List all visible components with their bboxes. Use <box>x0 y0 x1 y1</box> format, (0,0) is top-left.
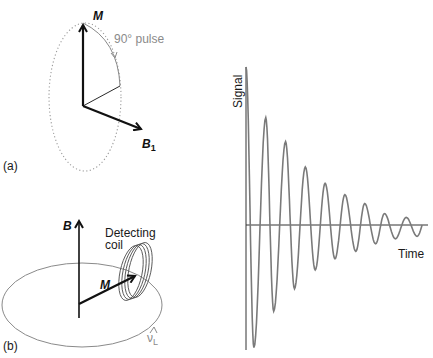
fid-signal-line <box>246 67 422 348</box>
larmor-frequency-label: νL <box>147 331 158 347</box>
coil-label-line2: coil <box>105 238 123 252</box>
magnetization-label-b: M <box>100 278 111 292</box>
b1-label-subscript: 1 <box>151 143 156 153</box>
precession-plane-ellipse <box>2 263 162 347</box>
pulse-label: 90° pulse <box>114 32 164 46</box>
b1-label-main: B <box>142 137 151 151</box>
panel-b-label: (b) <box>3 339 18 353</box>
panel-a-label: (a) <box>3 159 18 173</box>
x-axis-label: Time <box>398 247 425 261</box>
y-axis-label: Signal <box>231 75 245 108</box>
larmor-subscript: L <box>153 337 158 347</box>
fid-extrema <box>245 66 418 349</box>
tilted-vector-line <box>83 86 120 106</box>
panel-a: M 90° pulse B1 (a) <box>3 9 164 173</box>
fid-chart: Signal Time <box>231 66 428 350</box>
static-field-label: B <box>63 219 72 233</box>
b1-label: B1 <box>142 137 156 153</box>
precession-ellipse-dotted <box>49 23 121 171</box>
b1-field-arrow <box>83 106 141 129</box>
nmr-figure: M 90° pulse B1 (a) B Detecting coil M νL… <box>0 0 433 358</box>
magnetization-label-a: M <box>93 9 104 23</box>
panel-b: B Detecting coil M νL (b) <box>2 219 162 353</box>
